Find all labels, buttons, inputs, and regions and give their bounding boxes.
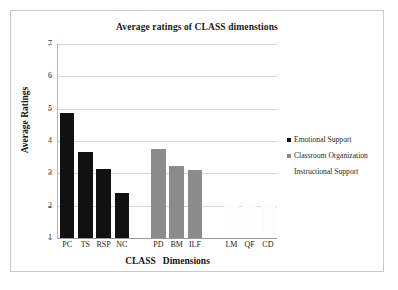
x-axis-title: CLASS Dimensions [58,256,277,266]
bar-qf [242,204,257,238]
bar-ilf [188,170,203,238]
legend-item-label: Classroom Organization [294,151,368,160]
chart-legend: Emotional SupportClassroom OrganizationI… [287,135,391,183]
legend-swatch-icon [287,138,291,142]
y-tick-mark-4 [48,141,52,142]
x-axis-tick-labels: PCTSRSPNCPDBMILFLMQFCD [58,240,277,254]
bar-cd [261,206,276,238]
chart-title: Average ratings of CLASS dimenstions [11,22,383,32]
x-tick-label-ilf: ILF [181,240,209,249]
bar-pc [60,113,75,238]
gridline-4 [58,141,277,142]
plot-area [58,44,277,238]
y-tick-mark-7 [48,44,52,45]
y-axis-tick-labels: 1234567 [24,44,52,239]
bar-nc [115,193,130,238]
gridline-1 [58,238,277,239]
bar-pd [151,149,166,238]
bar-bm [169,166,184,238]
gridline-5 [58,109,277,110]
x-tick-label-cd: CD [254,240,282,249]
bar-rsp [96,169,111,238]
gridline-6 [58,76,277,77]
legend-item-label: Instructional Support [294,167,358,176]
legend-item-1[interactable]: Emotional Support [287,135,391,144]
legend-item-label: Emotional Support [294,135,352,144]
legend-swatch-icon [287,154,291,158]
legend-item-2[interactable]: Classroom Organization [287,151,391,160]
x-tick-label-nc: NC [108,240,136,249]
legend-item-3[interactable]: Instructional Support [287,167,391,176]
gridline-7 [58,44,277,45]
y-tick-mark-1 [48,238,52,239]
bar-ts [78,152,93,238]
bar-lm [224,206,239,238]
y-tick-mark-5 [48,109,52,110]
legend-swatch-icon [287,170,291,174]
y-tick-mark-6 [48,76,52,77]
y-tick-mark-3 [48,173,52,174]
y-tick-mark-2 [48,206,52,207]
chart-frame: Average ratings of CLASS dimenstions Ave… [10,10,384,272]
